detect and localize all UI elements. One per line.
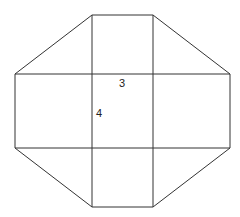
octagon-diagram: 3 4 [0, 0, 240, 217]
octagon-outline [15, 15, 230, 207]
label-top-side: 3 [119, 77, 125, 89]
label-left-side: 4 [96, 107, 102, 119]
